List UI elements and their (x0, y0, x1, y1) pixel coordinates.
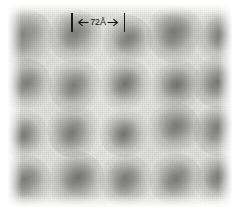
lattice-spot (149, 153, 203, 207)
edge-vignette (8, 4, 232, 207)
lattice-spot (193, 153, 233, 204)
lattice-spot (192, 55, 232, 109)
micrograph-image (8, 4, 232, 207)
film-grain-overlay (8, 4, 232, 207)
lattice-spot (148, 58, 202, 112)
lattice-spot (147, 102, 201, 156)
lattice-spot (47, 104, 101, 158)
scale-bar-label: 72Å (89, 18, 106, 27)
lattice-spot (98, 57, 152, 111)
lattice-spot (99, 107, 150, 158)
arrow-left-icon (78, 18, 89, 27)
lattice-spot (8, 9, 54, 67)
scale-bar-right-tick (124, 13, 126, 32)
background-mottle (8, 4, 232, 207)
lattice-spot (8, 109, 49, 160)
lattice-spot (194, 9, 232, 63)
scale-bar: 72Å (71, 13, 125, 32)
micrograph-figure: 72Å (0, 0, 240, 213)
lattice-spot (48, 59, 102, 113)
lattice-spot (146, 5, 204, 63)
lattice-spot (193, 105, 233, 156)
scale-bar-body: 72Å (73, 16, 123, 29)
lattice-spot (47, 151, 105, 207)
arrow-right-icon (107, 18, 118, 27)
lattice-spot (8, 58, 52, 112)
lattice-spot (99, 153, 153, 207)
lattice-spot (8, 155, 52, 207)
